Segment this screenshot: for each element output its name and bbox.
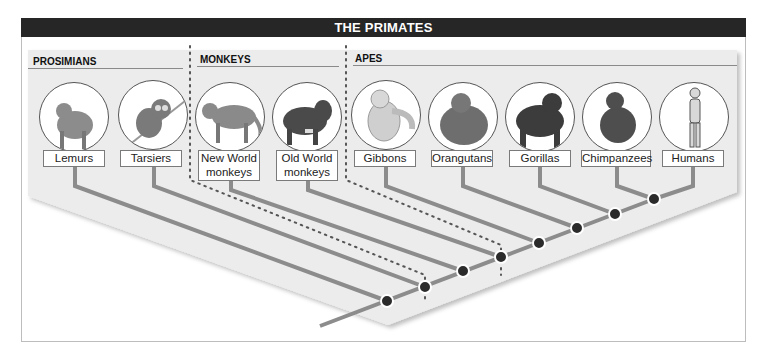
gibbon-circle (351, 80, 421, 150)
section-label-apes: APES (355, 53, 382, 64)
taxon-label-lemurs: Lemurs (43, 150, 105, 167)
lemur-circle (39, 82, 109, 152)
label-line: New World (199, 151, 259, 165)
taxon-label-tarsiers: Tarsiers (120, 150, 182, 167)
orangutan-icon (429, 83, 498, 152)
section-rule (353, 65, 737, 66)
human-circle (659, 82, 729, 152)
human-icon (660, 83, 729, 152)
node (381, 295, 393, 307)
taxon-label-old-world-monkeys: Old World monkeys (276, 150, 338, 181)
node (533, 237, 545, 249)
node (419, 281, 431, 293)
label-line: monkeys (277, 165, 337, 179)
node (609, 208, 621, 220)
taxon-label-new-world-monkeys: New World monkeys (198, 150, 260, 181)
taxon-label-chimpanzees: Chimpanzees (581, 150, 651, 167)
gorilla-icon (506, 83, 575, 152)
tarsier-circle (118, 80, 188, 150)
section-label-prosimians: PROSIMIANS (33, 56, 96, 67)
lemur-icon (40, 83, 109, 152)
chimpanzee-circle (582, 82, 652, 152)
orangutan-circle (428, 82, 498, 152)
old-world-monkey-circle (272, 82, 342, 152)
new-world-monkey-circle (195, 82, 265, 152)
taxon-label-orangutans: Orangutans (431, 150, 493, 167)
chimpanzee-icon (583, 83, 652, 152)
section-label-monkeys: MONKEYS (200, 54, 251, 65)
taxon-label-gorillas: Gorillas (509, 150, 571, 167)
old-world-monkey-icon (273, 83, 342, 152)
node (648, 193, 660, 205)
new-world-monkey-icon (196, 83, 265, 152)
label-line: monkeys (199, 165, 259, 179)
node (457, 265, 469, 277)
taxon-label-humans: Humans (662, 150, 724, 167)
node (571, 222, 583, 234)
gorilla-circle (505, 82, 575, 152)
gibbon-icon (352, 81, 421, 150)
taxon-label-gibbons: Gibbons (354, 150, 416, 167)
tarsier-icon (119, 81, 188, 150)
section-rule (28, 68, 183, 69)
label-line: Old World (277, 151, 337, 165)
section-rule (197, 66, 339, 67)
node (495, 251, 507, 263)
